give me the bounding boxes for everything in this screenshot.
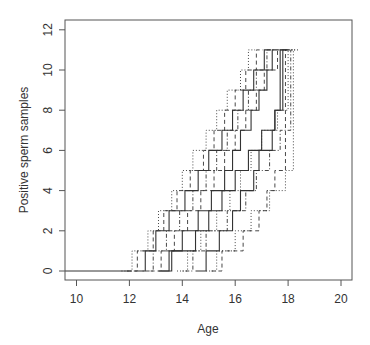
y-tick-label: 6 [41, 147, 55, 154]
y-tick-label: 8 [41, 107, 55, 114]
step-trajectory [121, 50, 255, 271]
y-axis: 024681012 [41, 23, 65, 275]
x-tick-label: 20 [334, 292, 348, 306]
y-tick-label: 4 [41, 187, 55, 194]
y-tick-label: 0 [41, 267, 55, 274]
x-tick-label: 18 [281, 292, 295, 306]
step-trajectory [158, 50, 278, 271]
step-trajectory [161, 50, 287, 271]
x-tick-label: 12 [123, 292, 137, 306]
x-axis-label: Age [197, 322, 219, 336]
y-tick-label: 2 [41, 227, 55, 234]
step-trajectory [127, 50, 263, 271]
step-trajectory [177, 50, 295, 271]
y-tick-label: 10 [41, 63, 55, 77]
x-tick-label: 14 [176, 292, 190, 306]
x-tick-label: 16 [229, 292, 243, 306]
series-layer [65, 50, 300, 271]
step-trajectory [151, 50, 285, 271]
x-tick-label: 10 [70, 292, 84, 306]
step-chart: 101214161820 024681012 Age Positive sper… [0, 0, 370, 345]
y-axis-label: Positive sperm samples [17, 87, 31, 214]
step-trajectory [135, 50, 271, 271]
step-trajectory [206, 50, 300, 271]
step-trajectory [196, 50, 290, 271]
x-axis: 101214161820 [70, 280, 348, 306]
y-tick-label: 12 [41, 23, 55, 37]
